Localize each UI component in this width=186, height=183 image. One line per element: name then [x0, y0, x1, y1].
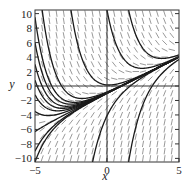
slope-segment: [42, 25, 43, 31]
slope-segment: [155, 48, 160, 52]
slope-segment: [157, 134, 158, 140]
slope-segment: [128, 134, 129, 140]
slope-segment: [140, 71, 146, 73]
slope-segment: [164, 112, 166, 118]
slope-segment: [42, 18, 43, 24]
slope-segment: [157, 141, 158, 147]
slope-segment: [56, 10, 57, 16]
slope-segment: [171, 141, 172, 147]
slope-segment: [98, 105, 102, 110]
slope-segment: [99, 119, 102, 125]
slope-segment: [113, 18, 114, 24]
slope-segment: [39, 121, 45, 123]
slope-segment: [99, 25, 100, 31]
slope-segment: [128, 112, 130, 118]
slope-segment: [62, 76, 65, 82]
solution-curve: [72, 57, 179, 183]
slope-segment: [91, 69, 95, 74]
slope-segment: [70, 141, 72, 147]
slope-segment: [69, 127, 72, 133]
slope-segment: [85, 155, 86, 161]
slope-segment: [49, 32, 50, 38]
slope-segment: [68, 100, 74, 102]
slope-segment: [112, 91, 117, 95]
slope-segment: [85, 148, 87, 154]
slope-segment: [90, 105, 95, 110]
slope-segment: [62, 134, 65, 140]
slope-segment: [55, 134, 58, 140]
slope-segment: [113, 47, 116, 53]
slope-segment: [171, 155, 172, 161]
slope-segment: [134, 55, 139, 60]
slope-segment: [84, 47, 86, 53]
slope-segment: [164, 148, 165, 154]
slope-segment: [128, 119, 130, 125]
slope-segment: [128, 25, 130, 31]
slope-segment: [99, 148, 100, 154]
slope-segment: [92, 134, 94, 140]
slope-segment: [91, 112, 95, 117]
slope-segment: [125, 71, 131, 73]
slope-segment: [121, 18, 123, 24]
slope-segment: [41, 148, 44, 154]
slope-segment: [70, 134, 73, 140]
slope-segment: [77, 134, 79, 140]
slope-segment: [170, 76, 173, 82]
slope-segment: [148, 40, 152, 45]
slope-segment: [171, 18, 174, 24]
slope-segment: [171, 105, 173, 111]
slope-segment: [63, 47, 65, 53]
slope-segment: [149, 18, 151, 24]
slope-segment: [164, 11, 166, 17]
slope-segment: [77, 148, 79, 154]
slope-segment: [78, 18, 79, 24]
slope-segment: [77, 155, 79, 161]
slope-segment: [135, 112, 137, 118]
slope-segment: [120, 32, 122, 38]
slope-segment: [92, 141, 94, 147]
slope-segment: [91, 54, 93, 60]
slope-segment: [156, 105, 158, 111]
slope-segment: [155, 40, 159, 45]
slope-segment: [48, 68, 50, 74]
slope-segment: [119, 70, 125, 73]
solution-curve: [55, 0, 179, 85]
slope-segment: [121, 148, 122, 154]
slope-segment: [134, 47, 138, 52]
slope-segment: [63, 155, 65, 161]
slope-segment: [84, 134, 86, 140]
slope-segment: [156, 33, 159, 39]
slope-segment: [148, 76, 153, 81]
slope-segment: [55, 141, 58, 147]
slope-segment: [69, 120, 73, 125]
slope-segment: [169, 41, 174, 45]
slope-segment: [133, 63, 139, 66]
slope-segment: [75, 92, 81, 95]
slope-segment: [140, 64, 146, 66]
slope-segment: [150, 141, 151, 147]
slope-segment: [135, 25, 137, 31]
slope-segment: [78, 10, 79, 16]
slope-segment: [56, 32, 57, 38]
slope-segment: [113, 25, 115, 31]
y-tick-label: −6: [20, 123, 32, 135]
slope-segment: [56, 18, 57, 24]
slope-segment: [62, 127, 66, 132]
slope-segment: [91, 119, 94, 125]
slope-segment: [150, 126, 151, 132]
slope-segment: [77, 69, 80, 75]
slope-segment: [113, 134, 115, 140]
y-tick-label: −4: [20, 109, 32, 121]
slope-segment: [170, 69, 174, 74]
slope-segment: [113, 112, 116, 118]
slope-segment: [134, 40, 137, 46]
slope-segment: [92, 10, 93, 16]
y-tick-label: 2: [27, 66, 33, 78]
slope-segment: [134, 98, 137, 104]
slope-segment: [70, 39, 71, 45]
slope-segment: [164, 119, 165, 125]
slope-segment: [134, 91, 138, 96]
slope-segment: [63, 69, 65, 75]
slope-segment: [91, 126, 93, 132]
slope-segment: [162, 40, 167, 45]
